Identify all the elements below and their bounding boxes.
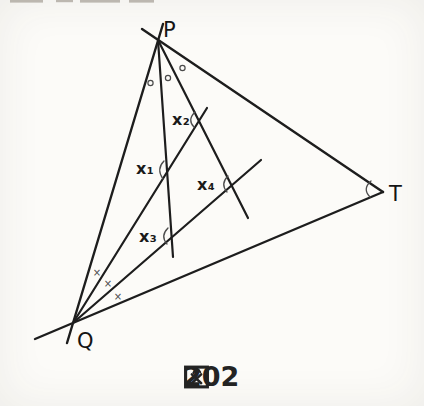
cross-mark-2: × — [104, 278, 112, 289]
q-trisector-1 — [73, 108, 207, 323]
circle-mark-1 — [148, 80, 153, 85]
p-trisector-1 — [158, 40, 173, 257]
circle-mark-3 — [180, 65, 185, 70]
circle-mark-2 — [165, 75, 170, 80]
cross-mark-1: × — [93, 267, 101, 278]
angle-label-x4: x₄ — [197, 175, 215, 194]
vertex-label-P: P — [163, 18, 176, 42]
vertex-label-Q: Q — [77, 329, 94, 353]
angle-label-x1: x₁ — [136, 159, 154, 178]
textbook-page-photo: × × × P Q T x₁ x₂ x₃ x₄ 202 — [0, 0, 424, 406]
angle-label-x2: x₂ — [172, 110, 190, 129]
geometry-figure: × × × P Q T x₁ x₂ x₃ x₄ — [0, 0, 424, 406]
cropped-text-strip — [10, 0, 154, 3]
kanji-zu-glyph — [183, 363, 210, 391]
angle-label-x3: x₃ — [139, 227, 157, 246]
side-QT — [35, 192, 383, 339]
figure-caption: 202 — [183, 363, 239, 391]
cross-mark-3: × — [114, 291, 122, 302]
vertex-label-T: T — [388, 182, 402, 206]
